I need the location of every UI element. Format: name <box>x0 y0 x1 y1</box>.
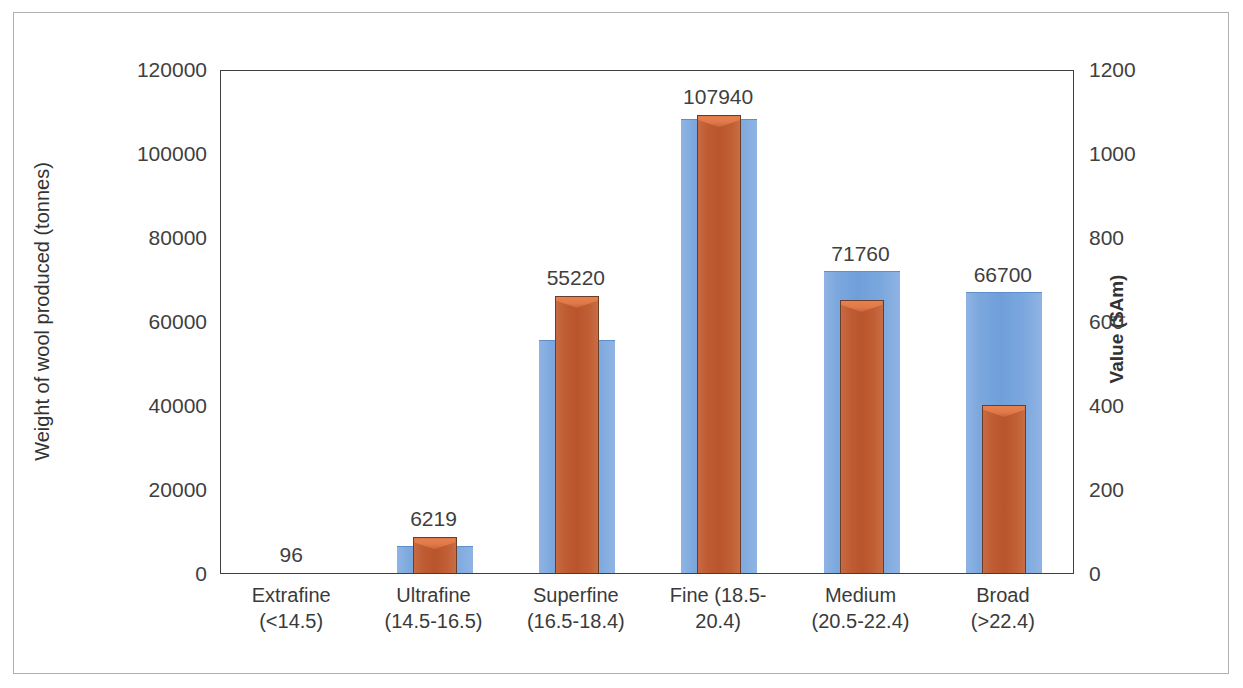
y-axis-secondary-tick-label: 800 <box>1089 227 1124 248</box>
y-axis-primary-tick-label: 80000 <box>149 227 207 248</box>
y-axis-secondary-ticks: 020040060080010001200 <box>1089 0 1199 688</box>
y-axis-primary-tick-label: 100000 <box>137 143 207 164</box>
y-axis-primary-tick-label: 120000 <box>137 59 207 80</box>
y-axis-primary-tick-label: 0 <box>195 563 207 584</box>
y-axis-secondary-tick-label: 400 <box>1089 395 1124 416</box>
x-axis-category-labels: Extrafine(<14.5)Ultrafine(14.5-16.5)Supe… <box>220 583 1074 673</box>
x-axis-category-label: Broad(>22.4) <box>918 583 1088 634</box>
y-axis-primary-tick-label: 20000 <box>149 479 207 500</box>
bar-value-cap <box>698 116 740 127</box>
y-axis-secondary-tick-label: 1200 <box>1089 59 1136 80</box>
chart-figure: Weight of wool produced (tonnes) Value (… <box>0 0 1243 688</box>
bar-value-cap <box>841 301 883 312</box>
bars-container <box>221 71 1073 573</box>
y-axis-secondary-tick-label: 600 <box>1089 311 1124 332</box>
y-axis-primary-tick-label: 40000 <box>149 395 207 416</box>
bar-value <box>697 115 741 573</box>
y-axis-secondary-tick-label: 200 <box>1089 479 1124 500</box>
bar-value-cap <box>556 297 598 308</box>
bar-value-cap <box>414 538 456 549</box>
y-axis-secondary-tick-label: 1000 <box>1089 143 1136 164</box>
y-axis-secondary-tick-label: 0 <box>1089 563 1101 584</box>
data-label: 55220 <box>496 267 656 288</box>
x-axis-category-label-line1: Broad <box>918 583 1088 609</box>
plot-area <box>220 70 1074 574</box>
y-axis-primary-ticks: 020000400006000080000100000120000 <box>95 0 207 688</box>
data-label: 96 <box>211 544 371 565</box>
bar-value <box>840 300 884 573</box>
y-axis-primary-tick-label: 60000 <box>149 311 207 332</box>
bar-value <box>413 537 457 573</box>
bar-value <box>982 405 1026 573</box>
data-label: 107940 <box>638 86 798 107</box>
data-label: 6219 <box>354 508 514 529</box>
data-label: 71760 <box>781 243 941 264</box>
data-label: 66700 <box>923 264 1083 285</box>
bar-value-cap <box>983 406 1025 417</box>
bar-value <box>555 296 599 573</box>
y-axis-primary-title: Weight of wool produced (tonnes) <box>31 102 54 522</box>
x-axis-category-label-line2: (>22.4) <box>918 609 1088 635</box>
